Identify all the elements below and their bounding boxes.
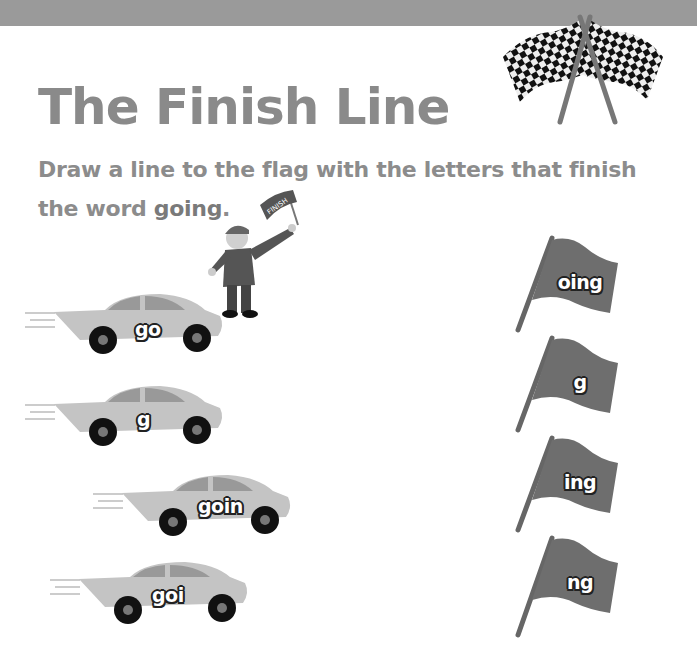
flag-ing[interactable]: ing [510,435,620,540]
car-go[interactable]: go [20,288,260,368]
instructions: Draw a line to the flag with the letters… [38,150,678,228]
page-title: The Finish Line [38,78,449,136]
flag-label: ing [540,471,620,493]
car-label: go [135,318,161,340]
flag-label: g [540,371,620,393]
car-label: goi [152,584,184,606]
car-label: g [137,408,150,430]
car-g[interactable]: g [20,370,260,450]
flag-g[interactable]: g [510,335,620,440]
car-goi[interactable]: goi [45,562,285,642]
flag-ng[interactable]: ng [510,535,620,640]
flag-label: ng [540,571,620,593]
flag-label: oing [540,271,620,293]
car-goin[interactable]: goin [88,462,328,542]
flag-oing[interactable]: oing [510,235,620,340]
car-label: goin [198,495,243,517]
instructions-text: Draw a line to the flag with the letters… [38,157,636,221]
checkered-flags-icon [495,12,670,127]
